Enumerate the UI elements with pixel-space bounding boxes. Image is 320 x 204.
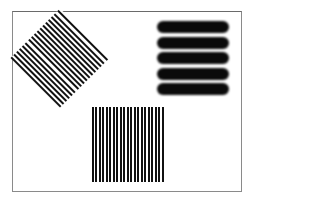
horizontal-bar	[157, 83, 229, 95]
horizontal-bar	[157, 37, 229, 49]
horizontal-bar	[157, 52, 229, 64]
horizontal-bar	[157, 21, 229, 33]
horizontal-bar	[157, 68, 229, 80]
vertical-grating	[92, 107, 165, 182]
horizontal-bars-grating	[157, 21, 229, 99]
